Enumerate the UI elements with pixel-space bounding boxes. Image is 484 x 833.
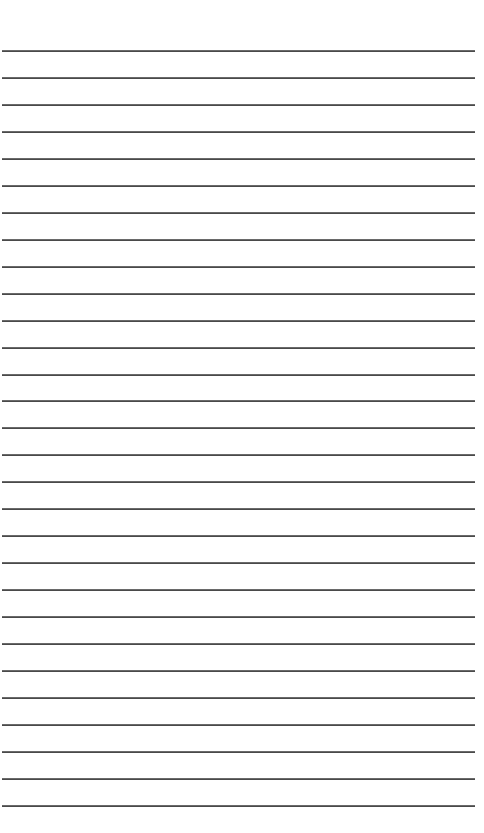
ruled-line	[2, 454, 475, 456]
ruled-line	[2, 724, 475, 726]
ruled-line	[2, 374, 475, 376]
ruled-line	[2, 212, 475, 214]
ruled-line	[2, 805, 475, 807]
ruled-line	[2, 481, 475, 483]
ruled-line	[2, 239, 475, 241]
ruled-line	[2, 347, 475, 349]
ruled-line	[2, 535, 475, 537]
ruled-line	[2, 320, 475, 322]
ruled-line	[2, 751, 475, 753]
ruled-line	[2, 616, 475, 618]
ruled-line	[2, 562, 475, 564]
ruled-line	[2, 643, 475, 645]
ruled-line	[2, 131, 475, 133]
ruled-line	[2, 427, 475, 429]
ruled-line	[2, 400, 475, 402]
ruled-line	[2, 50, 475, 52]
ruled-line	[2, 104, 475, 106]
ruled-line	[2, 697, 475, 699]
ruled-line	[2, 508, 475, 510]
ruled-line	[2, 77, 475, 79]
ruled-line	[2, 185, 475, 187]
ruled-line	[2, 589, 475, 591]
ruled-line	[2, 670, 475, 672]
ruled-line	[2, 778, 475, 780]
lined-page	[0, 0, 484, 833]
ruled-line	[2, 158, 475, 160]
ruled-line	[2, 266, 475, 268]
ruled-line	[2, 293, 475, 295]
